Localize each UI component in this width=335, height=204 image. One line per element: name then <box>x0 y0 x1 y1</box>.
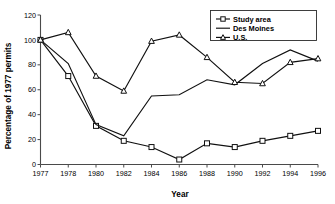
data-point-marker-square <box>221 17 225 21</box>
y-tick-label: 120 <box>24 11 36 20</box>
data-point-marker-square <box>177 157 182 162</box>
line-chart: Percentage of 1977 permits Year 02040608… <box>0 0 335 204</box>
data-point-marker-square <box>149 145 154 150</box>
legend-label: Study area <box>233 15 272 24</box>
data-point-marker-triangle <box>315 56 321 61</box>
legend-label: U.S. <box>233 33 247 42</box>
chart-figure: Percentage of 1977 permits Year 02040608… <box>0 0 335 204</box>
y-axis-tick-labels: 020406080100120 <box>24 11 36 170</box>
x-tick-label: 1988 <box>199 169 215 178</box>
x-tick-label: 1984 <box>144 169 160 178</box>
x-axis-tick-labels: 1977197819801982198419861988199019921994… <box>33 169 327 178</box>
y-axis-title: Percentage of 1977 permits <box>4 42 13 149</box>
series-line <box>41 32 319 91</box>
data-point-marker-square <box>288 133 293 138</box>
y-tick-label: 80 <box>28 60 36 69</box>
x-tick-label: 1977 <box>33 169 49 178</box>
x-tick-label: 1992 <box>255 169 271 178</box>
y-tick-label: 100 <box>24 36 36 45</box>
y-axis-title-label: Percentage of 1977 permits <box>4 42 13 149</box>
data-series-layer <box>38 29 321 162</box>
data-point-marker-square <box>316 128 321 133</box>
series-line <box>41 40 319 160</box>
x-tick-label: 1980 <box>88 169 104 178</box>
x-tick-label: 1978 <box>60 169 76 178</box>
x-axis-title-label: Year <box>171 190 189 199</box>
data-point-marker-square <box>260 138 265 143</box>
y-tick-label: 60 <box>28 85 36 94</box>
chart-legend: Study areaDes MoinesU.S. <box>211 11 317 43</box>
data-point-marker-triangle <box>65 29 71 34</box>
data-point-marker-square <box>205 141 210 146</box>
data-point-marker-square <box>66 74 71 79</box>
y-tick-label: 20 <box>28 135 36 144</box>
x-axis-title: Year <box>171 190 189 199</box>
x-tick-label: 1994 <box>282 169 298 178</box>
legend-label: Des Moines <box>233 24 274 33</box>
x-tick-label: 1996 <box>310 169 326 178</box>
x-tick-label: 1990 <box>227 169 243 178</box>
data-point-marker-triangle <box>176 32 182 37</box>
x-tick-label: 1982 <box>116 169 132 178</box>
data-point-marker-square <box>121 138 126 143</box>
data-point-marker-square <box>232 145 237 150</box>
y-tick-label: 40 <box>28 110 36 119</box>
x-tick-label: 1986 <box>171 169 187 178</box>
